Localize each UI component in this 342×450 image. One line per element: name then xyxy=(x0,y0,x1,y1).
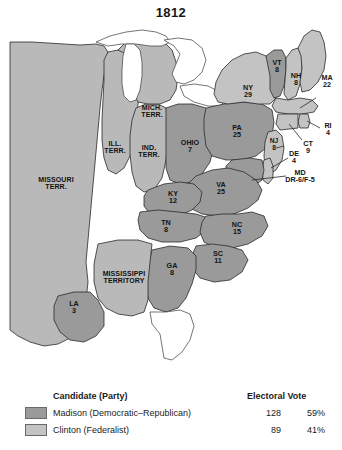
legend-swatch-madison xyxy=(25,407,47,419)
region-rhode-island xyxy=(298,114,310,128)
water-lake-michigan xyxy=(122,44,142,102)
region-florida xyxy=(150,310,194,360)
region-georgia xyxy=(146,246,196,312)
legend-row-madison: Madison (Democratic–Republican) 128 59% xyxy=(25,404,325,421)
legend-votes-madison: 128 xyxy=(247,408,289,418)
legend-percent-clinton: 41% xyxy=(289,425,325,435)
region-pennsylvania xyxy=(204,102,274,160)
region-connecticut xyxy=(276,114,298,130)
region-massachusetts xyxy=(272,98,318,114)
region-indiana-territory xyxy=(130,104,168,192)
legend-swatch-cell-madison xyxy=(25,407,53,419)
legend-votes-clinton: 89 xyxy=(247,425,289,435)
region-south-carolina xyxy=(192,244,248,282)
legend-label-madison: Madison (Democratic–Republican) xyxy=(53,408,247,418)
map-canvas xyxy=(0,0,342,450)
legend-header-candidate: Candidate (Party) xyxy=(53,391,247,401)
region-north-carolina xyxy=(200,212,268,248)
legend-header-electoral: Electoral Vote xyxy=(247,391,325,401)
region-maine-district xyxy=(298,30,326,92)
map-legend: Candidate (Party) Electoral Vote Madison… xyxy=(25,388,325,438)
electoral-map-figure: 1812 xyxy=(0,0,342,450)
region-tennessee xyxy=(138,210,208,242)
legend-percent-madison: 59% xyxy=(289,408,325,418)
water-lake-superior xyxy=(96,30,170,46)
region-mississippi-territory xyxy=(94,240,152,316)
legend-swatch-clinton xyxy=(25,424,47,436)
legend-row-clinton: Clinton (Federalist) 89 41% xyxy=(25,421,325,438)
legend-label-clinton: Clinton (Federalist) xyxy=(53,425,247,435)
legend-swatch-cell-clinton xyxy=(25,424,53,436)
legend-header-row: Candidate (Party) Electoral Vote xyxy=(25,388,325,404)
region-new-hampshire xyxy=(284,48,302,100)
